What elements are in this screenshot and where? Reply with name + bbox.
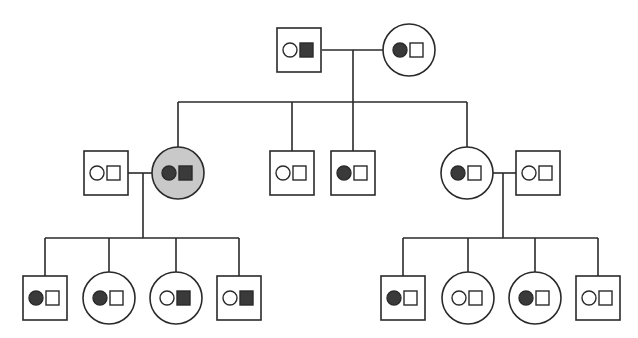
square-allele-icon	[46, 291, 59, 305]
female-circle-symbol	[441, 147, 493, 199]
square-allele-icon	[536, 291, 549, 305]
female-individual	[150, 272, 202, 324]
circle-allele-icon	[93, 291, 107, 305]
female-individual	[83, 272, 135, 324]
circle-allele-icon	[223, 291, 237, 305]
square-allele-icon	[240, 291, 253, 305]
square-allele-icon	[599, 291, 612, 305]
square-allele-icon	[354, 166, 367, 180]
circle-allele-icon	[387, 291, 401, 305]
male-individual	[331, 151, 375, 195]
square-allele-icon	[110, 291, 123, 305]
square-allele-icon	[177, 291, 190, 305]
female-individual	[383, 24, 435, 76]
male-individual	[277, 28, 321, 72]
circle-allele-icon	[90, 166, 104, 180]
female-circle-symbol	[83, 272, 135, 324]
square-allele-icon	[293, 166, 306, 180]
square-allele-icon	[300, 43, 313, 57]
square-allele-icon	[469, 291, 482, 305]
female-circle-symbol	[442, 272, 494, 324]
female-circle-symbol	[152, 147, 204, 199]
individuals-layer	[23, 24, 620, 324]
circle-allele-icon	[519, 291, 533, 305]
circle-allele-icon	[29, 291, 43, 305]
circle-allele-icon	[452, 291, 466, 305]
female-circle-symbol	[509, 272, 561, 324]
male-individual	[381, 276, 425, 320]
male-individual	[270, 151, 314, 195]
female-individual	[509, 272, 561, 324]
male-individual	[516, 151, 560, 195]
circle-allele-icon	[393, 43, 407, 57]
circle-allele-icon	[162, 166, 176, 180]
square-allele-icon	[410, 43, 423, 57]
male-individual	[217, 276, 261, 320]
circle-allele-icon	[522, 166, 536, 180]
square-allele-icon	[107, 166, 120, 180]
male-individual	[23, 276, 67, 320]
square-allele-icon	[468, 166, 481, 180]
female-individual	[152, 147, 204, 199]
circle-allele-icon	[337, 166, 351, 180]
female-circle-symbol	[383, 24, 435, 76]
male-individual	[84, 151, 128, 195]
circle-allele-icon	[276, 166, 290, 180]
circle-allele-icon	[451, 166, 465, 180]
square-allele-icon	[404, 291, 417, 305]
circle-allele-icon	[582, 291, 596, 305]
female-individual	[442, 272, 494, 324]
female-individual	[441, 147, 493, 199]
square-allele-icon	[539, 166, 552, 180]
female-circle-symbol	[150, 272, 202, 324]
pedigree-chart	[0, 0, 638, 338]
square-allele-icon	[179, 166, 192, 180]
circle-allele-icon	[160, 291, 174, 305]
circle-allele-icon	[283, 43, 297, 57]
male-individual	[576, 276, 620, 320]
